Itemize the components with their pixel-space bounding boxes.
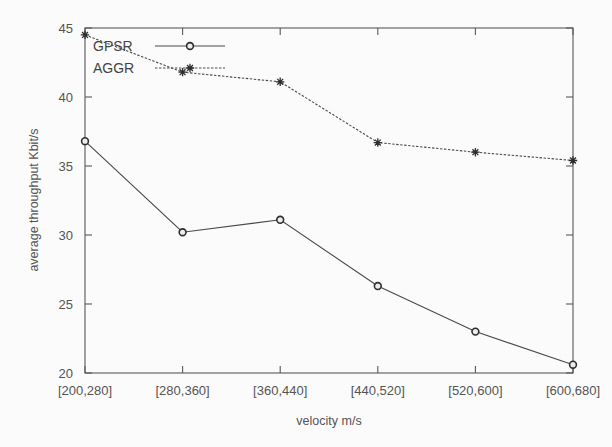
x-tick-label: [520,600] xyxy=(448,383,502,398)
x-tick-label: [600,680] xyxy=(546,383,600,398)
y-tick-label: 40 xyxy=(59,90,73,105)
series-aggr-star-marker xyxy=(81,31,89,39)
series-aggr-star-marker xyxy=(471,148,479,156)
x-axis-ticks xyxy=(85,28,573,373)
y-axis-tick-labels: 202530354045 xyxy=(59,21,73,381)
series-aggr-star-marker xyxy=(374,138,382,146)
legend-entry-aggr: AGGR xyxy=(93,60,225,76)
series-gpsr-circle-marker xyxy=(179,229,186,236)
series-gpsr-circle-marker xyxy=(374,283,381,290)
y-axis-title: average throughput Kbit/s xyxy=(27,128,41,271)
series-gpsr-circle-marker xyxy=(472,328,479,335)
legend-label-gpsr: GPSR xyxy=(93,38,133,54)
plot-frame xyxy=(85,28,573,373)
y-tick-label: 30 xyxy=(59,228,73,243)
y-tick-label: 45 xyxy=(59,21,73,36)
series-gpsr xyxy=(82,138,577,368)
data-series-layer xyxy=(81,31,577,368)
legend-entry-gpsr: GPSR xyxy=(93,38,225,54)
y-tick-label: 20 xyxy=(59,366,73,381)
series-aggr-star-marker xyxy=(178,68,186,76)
legend-gpsr-circle-marker xyxy=(187,43,194,50)
y-tick-label: 35 xyxy=(59,159,73,174)
chart-legend: GPSRAGGR xyxy=(93,38,225,76)
series-aggr-star-marker xyxy=(569,156,577,164)
x-tick-label: [360,440] xyxy=(253,383,307,398)
series-aggr xyxy=(81,31,577,165)
legend-label-aggr: AGGR xyxy=(93,60,134,76)
series-aggr-star-marker xyxy=(276,78,284,86)
x-tick-label: [280,360] xyxy=(155,383,209,398)
x-tick-label: [200,280] xyxy=(58,383,112,398)
line-chart: 202530354045 [200,280][280,360][360,440]… xyxy=(0,0,612,447)
series-gpsr-circle-marker xyxy=(277,216,284,223)
series-line-aggr xyxy=(85,35,573,161)
x-axis-title: velocity m/s xyxy=(296,414,361,428)
chart-figure: 202530354045 [200,280][280,360][360,440]… xyxy=(0,0,612,447)
legend-aggr-star-marker xyxy=(186,64,194,72)
x-axis-tick-labels: [200,280][280,360][360,440][440,520][520… xyxy=(58,383,600,398)
x-tick-label: [440,520] xyxy=(351,383,405,398)
y-tick-label: 25 xyxy=(59,297,73,312)
series-line-gpsr xyxy=(85,141,573,365)
y-axis-ticks xyxy=(85,28,573,373)
series-gpsr-circle-marker xyxy=(82,138,89,145)
series-gpsr-circle-marker xyxy=(570,361,577,368)
